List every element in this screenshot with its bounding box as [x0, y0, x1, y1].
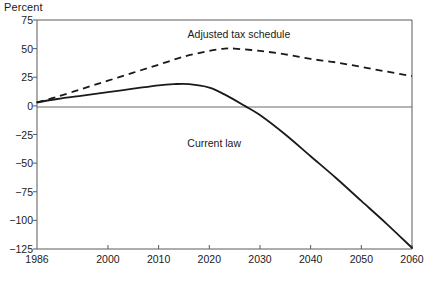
- x-axis-ticks: [108, 245, 412, 249]
- chart-container: Percent 7550250−25−50−75−100−125 1986200…: [0, 0, 424, 281]
- series-label-current-law: Current law: [187, 137, 241, 149]
- axes: [37, 20, 412, 249]
- series-line-current-law: [37, 84, 412, 248]
- series-label-adjusted-tax-schedule: Adjusted tax schedule: [188, 28, 291, 40]
- y-axis-ticks: [33, 20, 37, 249]
